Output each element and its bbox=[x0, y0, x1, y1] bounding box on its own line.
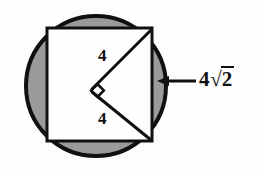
geometry-figure: 4 4 4√2 bbox=[0, 0, 263, 174]
radical-sign-icon: √ bbox=[209, 69, 221, 90]
length-label-diagonal: 4√2 bbox=[199, 66, 234, 90]
length-label-bottom: 4 bbox=[98, 110, 107, 127]
diagonal-coefficient: 4 bbox=[199, 67, 209, 91]
length-label-top: 4 bbox=[98, 47, 107, 64]
diagonal-radicand: 2 bbox=[221, 66, 234, 90]
diagonal-expression: 4√2 bbox=[199, 66, 234, 90]
